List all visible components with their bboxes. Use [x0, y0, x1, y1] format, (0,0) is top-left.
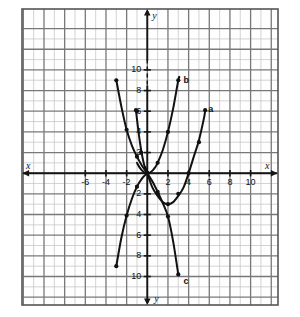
x-tick-label: 4 — [186, 178, 191, 187]
y-axis-letter-top: y — [152, 11, 156, 21]
y-tick-label: 4 — [136, 127, 141, 136]
y-tick-label: 4 — [136, 210, 141, 219]
coordinate-plane — [0, 0, 300, 317]
data-point — [187, 171, 191, 175]
data-point — [166, 202, 170, 206]
data-point — [203, 108, 207, 112]
data-point — [166, 130, 170, 134]
x-tick-label: -4 — [102, 178, 110, 187]
data-point — [114, 264, 118, 268]
x-tick-label: 6 — [207, 178, 212, 187]
y-tick-label: 2 — [136, 189, 141, 198]
y-tick-label: 2 — [136, 148, 141, 157]
y-tick-label: 8 — [136, 86, 141, 95]
x-tick-label: 8 — [227, 178, 232, 187]
data-point — [125, 128, 129, 132]
data-point — [156, 161, 160, 165]
curve-label-c: c — [183, 277, 188, 286]
data-point — [197, 140, 201, 144]
plot-background — [22, 9, 278, 305]
data-point — [125, 213, 129, 217]
y-tick-label: 6 — [136, 231, 141, 240]
y-tick-label: 6 — [136, 107, 141, 116]
data-point — [176, 272, 180, 276]
y-tick-label: 8 — [136, 251, 141, 260]
data-point — [145, 171, 149, 175]
data-point — [156, 190, 160, 194]
data-point — [176, 192, 180, 196]
x-tick-label: -6 — [81, 178, 89, 187]
x-tick-label: -2 — [123, 178, 131, 187]
curve-label-a: a — [208, 105, 213, 114]
graph-figure: a b c x x y y -6-4-2246810246810246810 — [0, 0, 300, 317]
curve-label-b: b — [183, 76, 189, 85]
x-tick-label: 10 — [246, 178, 256, 187]
x-tick-label: 2 — [165, 178, 170, 187]
x-axis-letter-right: x — [265, 161, 269, 171]
data-point — [166, 214, 170, 218]
y-axis-letter-bottom: y — [154, 294, 158, 304]
y-tick-label: 10 — [131, 272, 141, 281]
data-point — [114, 78, 118, 82]
x-axis-letter-left: x — [26, 161, 30, 171]
y-tick-label: 10 — [131, 65, 141, 74]
data-point — [176, 78, 180, 82]
